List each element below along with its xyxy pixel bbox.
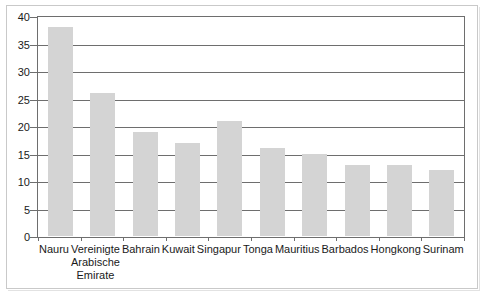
y-axis-tick-label: 20 bbox=[4, 122, 30, 133]
y-axis-tick-label: 15 bbox=[4, 149, 30, 160]
y-axis-tick-mark bbox=[30, 210, 37, 211]
x-axis-category-label: Bahrain bbox=[121, 243, 161, 282]
y-axis-tick-label: 10 bbox=[4, 177, 30, 188]
bar bbox=[90, 93, 115, 236]
x-axis-category-label: Barbados bbox=[321, 243, 370, 282]
bar-slot bbox=[81, 18, 123, 236]
x-axis-category-label-line: Nauru bbox=[39, 243, 69, 256]
x-axis-category-label: Nauru bbox=[38, 243, 70, 282]
x-axis-tick-mark bbox=[38, 237, 39, 241]
x-axis-tick-mark bbox=[464, 237, 465, 241]
x-axis-tick-mark bbox=[251, 237, 252, 241]
x-axis-category-label-line: Arabische bbox=[71, 256, 120, 269]
bar bbox=[345, 165, 370, 237]
bar bbox=[302, 154, 327, 237]
x-axis-tick-mark bbox=[421, 237, 422, 241]
x-axis-category-label: Kuwait bbox=[161, 243, 196, 282]
x-axis-tick-mark bbox=[294, 237, 295, 241]
x-axis-category-label-line: Surinam bbox=[423, 243, 464, 256]
x-axis-category-label-line: Mauritius bbox=[275, 243, 320, 256]
bar-series bbox=[39, 18, 463, 236]
plot-area bbox=[37, 16, 465, 238]
x-axis-category-label-line: Singapur bbox=[197, 243, 241, 256]
y-axis-tick-mark bbox=[30, 182, 37, 183]
bar-slot bbox=[209, 18, 251, 236]
bar-slot bbox=[421, 18, 463, 236]
y-axis-tick-label: 35 bbox=[4, 39, 30, 50]
bar bbox=[387, 165, 412, 237]
x-axis-tick-mark bbox=[81, 237, 82, 241]
bar bbox=[48, 27, 73, 236]
bar bbox=[217, 121, 242, 237]
bar bbox=[133, 132, 158, 237]
y-axis-tick-mark bbox=[30, 72, 37, 73]
y-axis-tick-label: 25 bbox=[4, 94, 30, 105]
x-axis-tick-mark bbox=[208, 237, 209, 241]
bar-slot bbox=[166, 18, 208, 236]
x-axis-category-label-line: Barbados bbox=[322, 243, 369, 256]
x-axis-category-label: Singapur bbox=[196, 243, 242, 282]
y-axis-tick-label: 40 bbox=[4, 12, 30, 23]
x-axis-tick-mark bbox=[166, 237, 167, 241]
x-axis-labels: NauruVereinigteArabischeEmirateBahrainKu… bbox=[38, 243, 464, 282]
bar bbox=[260, 148, 285, 236]
y-axis-tick-label: 30 bbox=[4, 67, 30, 78]
bar-slot bbox=[39, 18, 81, 236]
x-axis-category-label: Hongkong bbox=[370, 243, 422, 282]
x-axis-category-label: Tonga bbox=[242, 243, 274, 282]
x-axis-tick-mark bbox=[123, 237, 124, 241]
y-axis-tick-mark bbox=[30, 17, 37, 18]
x-axis-category-label-line: Bahrain bbox=[122, 243, 160, 256]
bar-slot bbox=[293, 18, 335, 236]
x-axis-category-label: Mauritius bbox=[274, 243, 321, 282]
x-axis-category-label: Surinam bbox=[422, 243, 465, 282]
bar-slot bbox=[378, 18, 420, 236]
bar-chart-figure: 0510152025303540 NauruVereinigteArabisch… bbox=[0, 0, 490, 297]
y-axis-tick-mark bbox=[30, 100, 37, 101]
x-axis-ticks bbox=[37, 237, 465, 241]
y-axis-tick-mark bbox=[30, 45, 37, 46]
bar bbox=[429, 170, 454, 236]
bar-slot bbox=[251, 18, 293, 236]
y-axis-tick-mark bbox=[30, 155, 37, 156]
x-axis-tick-mark bbox=[379, 237, 380, 241]
y-axis-tick-mark bbox=[30, 127, 37, 128]
y-axis-tick-label: 5 bbox=[4, 204, 30, 215]
y-axis-tick-mark bbox=[30, 237, 37, 238]
x-axis-category-label-line: Vereinigte bbox=[71, 243, 120, 256]
x-axis-category-label-line: Emirate bbox=[71, 269, 120, 282]
bar-slot bbox=[336, 18, 378, 236]
x-axis-category-label: VereinigteArabischeEmirate bbox=[70, 243, 121, 282]
x-axis-category-label-line: Tonga bbox=[243, 243, 273, 256]
x-axis-tick-mark bbox=[336, 237, 337, 241]
y-axis-tick-label: 0 bbox=[4, 232, 30, 243]
x-axis-category-label-line: Hongkong bbox=[371, 243, 421, 256]
bar-slot bbox=[124, 18, 166, 236]
x-axis-category-label-line: Kuwait bbox=[162, 243, 195, 256]
bar bbox=[175, 143, 200, 237]
